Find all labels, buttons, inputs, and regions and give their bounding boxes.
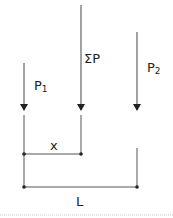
force-p2-label: P2	[147, 60, 161, 76]
dimension-dot-icon	[79, 152, 83, 156]
dimension-l	[22, 185, 139, 189]
force-sum-p-label: ΣP	[84, 51, 100, 66]
arrowhead-icon	[133, 104, 141, 111]
arrowhead-icon	[20, 104, 28, 111]
force-p1-arrow	[20, 63, 28, 111]
force-diagram: P1 ΣP P2 x L	[0, 0, 173, 218]
dimension-dot-icon	[22, 152, 26, 156]
dimension-l-label: L	[76, 194, 84, 209]
dimension-dot-icon	[22, 185, 26, 189]
force-p1-label: P1	[34, 78, 48, 94]
force-p2-arrow	[133, 32, 141, 111]
arrowhead-icon	[77, 104, 85, 111]
dimension-x-label: x	[50, 138, 58, 153]
dimension-dot-icon	[135, 185, 139, 189]
